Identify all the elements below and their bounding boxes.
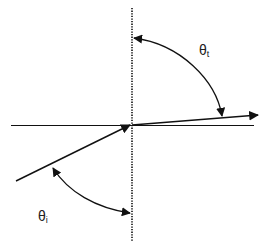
incident-ray xyxy=(16,125,130,181)
theta-i-label: θi xyxy=(38,208,48,225)
theta-t-label: θt xyxy=(199,42,210,59)
refraction-diagram: θt θi xyxy=(0,0,268,242)
refracted-ray xyxy=(132,115,258,125)
incidence-angle-arc xyxy=(53,168,130,213)
